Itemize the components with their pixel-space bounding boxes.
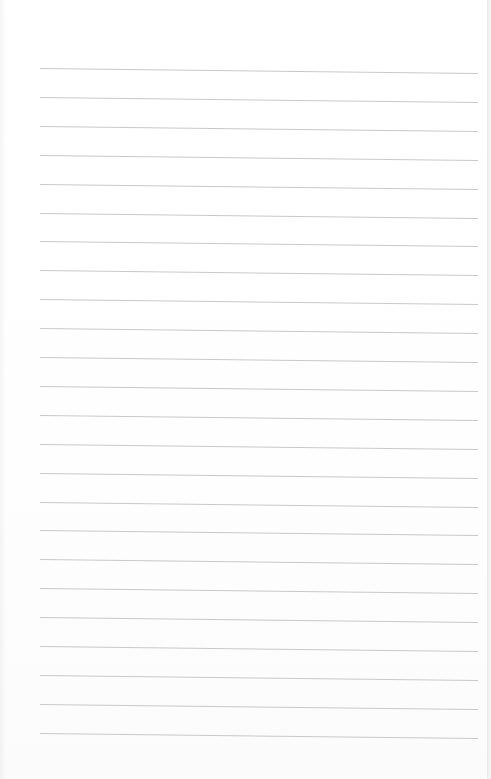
ruled-line — [40, 386, 478, 392]
ruled-line — [40, 444, 478, 450]
ruled-line — [40, 733, 478, 739]
ruled-line — [40, 502, 478, 508]
ruled-line — [40, 588, 478, 594]
lined-paper-sheet — [0, 0, 487, 779]
ruled-line — [40, 357, 478, 363]
ruled-line — [40, 415, 478, 421]
ruled-line — [40, 270, 478, 276]
ruled-line — [40, 704, 478, 710]
ruled-line — [40, 646, 478, 652]
ruled-line — [40, 530, 478, 536]
ruled-line — [40, 241, 478, 247]
paper-edge-shadow — [0, 0, 6, 779]
ruled-line — [40, 68, 478, 74]
ruled-line — [40, 617, 478, 623]
ruled-line — [40, 299, 478, 305]
ruled-line — [40, 97, 478, 103]
ruled-line — [40, 126, 478, 132]
ruled-line — [40, 328, 478, 334]
ruled-line — [40, 184, 478, 190]
ruled-line — [40, 213, 478, 219]
ruled-line — [40, 559, 478, 565]
ruled-line — [40, 473, 478, 479]
ruled-line — [40, 155, 478, 161]
ruled-line — [40, 675, 478, 681]
